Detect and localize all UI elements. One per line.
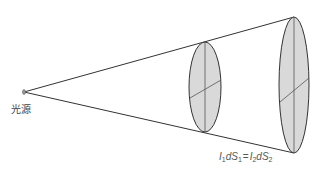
light-cone-diagram <box>0 0 322 178</box>
lower-ray <box>24 92 294 153</box>
formula-equals: = <box>242 151 250 162</box>
light-source-label: 光源 <box>11 101 31 116</box>
formula-dS2: dS <box>256 151 268 162</box>
flux-formula: I1dS1=I2dS2 <box>219 151 273 163</box>
formula-sub-s2: 2 <box>269 156 273 163</box>
upper-ray <box>24 17 294 92</box>
formula-dS1: dS <box>226 151 238 162</box>
light-source-point <box>23 90 26 95</box>
far-surface-dS2 <box>279 17 309 153</box>
near-surface-dS1 <box>189 42 221 132</box>
